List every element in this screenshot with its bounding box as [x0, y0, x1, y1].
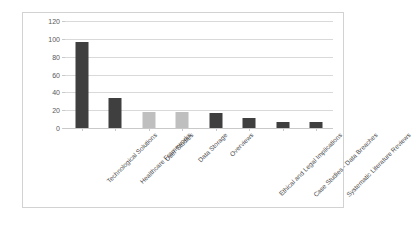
- y-axis-tick-label: 120: [48, 18, 60, 25]
- y-axis-tick-label: 100: [48, 35, 60, 42]
- bar[interactable]: [243, 118, 256, 128]
- bar-slot: [199, 21, 233, 128]
- y-axis-tick-label: 80: [52, 53, 60, 60]
- bar-slot: [99, 21, 133, 128]
- bar[interactable]: [75, 42, 88, 128]
- y-axis-tick-label: 20: [52, 107, 60, 114]
- bar-slot: [166, 21, 200, 128]
- bar-slot: [300, 21, 334, 128]
- x-axis-tick-label: Ethical and Legal Implications: [278, 132, 343, 197]
- bar[interactable]: [209, 113, 222, 128]
- x-axis-tick-label: Systematic Literature Reviews: [346, 132, 412, 198]
- x-axis-tick-label: Data Storage: [197, 132, 229, 164]
- x-axis-tick-label: Overviews: [229, 132, 255, 158]
- plot-area: 020406080100120: [65, 21, 333, 128]
- bar-slot: [65, 21, 99, 128]
- bar[interactable]: [176, 112, 189, 128]
- y-axis-tick-label: 40: [52, 89, 60, 96]
- y-axis-tick-label: 0: [56, 125, 60, 132]
- x-axis-tick-label: User Studies: [164, 132, 195, 163]
- bar-slot: [233, 21, 267, 128]
- bar-slot: [266, 21, 300, 128]
- bar-slot: [132, 21, 166, 128]
- x-axis-tick-label: Case Studies - Data Breaches: [312, 132, 378, 198]
- bar[interactable]: [109, 98, 122, 128]
- x-axis-tick-labels: Technological SolutionsHealthcare Framew…: [65, 128, 333, 208]
- chart-figure: No. of Papers 020406080100120 Technologi…: [22, 12, 344, 208]
- y-axis-tick-label: 60: [52, 71, 60, 78]
- bar-series: [65, 21, 333, 128]
- bar[interactable]: [142, 112, 155, 128]
